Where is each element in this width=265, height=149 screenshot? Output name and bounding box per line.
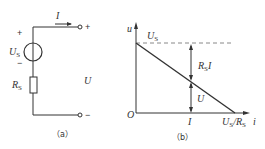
terminal-plus-icon — [78, 25, 82, 29]
current-arrow-icon — [67, 22, 72, 26]
us-label: US — [147, 30, 158, 43]
source-plus-label: + — [17, 28, 22, 38]
graph-b: u i O US RSI U I US/RS （b） — [127, 22, 256, 142]
caption-b: （b） — [172, 133, 193, 142]
y-axis-label: u — [127, 23, 132, 34]
rsi-arrow-up-icon — [189, 44, 193, 50]
voltage-label: U — [84, 75, 92, 86]
resistor-icon — [30, 77, 37, 93]
source-label: US — [9, 46, 20, 59]
circuit-a: I + − + − US RS U （a） — [9, 10, 92, 139]
characteristic-line — [136, 43, 235, 113]
intercept-label: US/RS — [222, 116, 246, 129]
rsi-label: RSI — [197, 60, 212, 73]
resistor-label: RS — [11, 79, 22, 92]
u-label: U — [197, 93, 205, 104]
u-arrow-down-icon — [189, 107, 193, 113]
y-axis-arrow-icon — [134, 22, 138, 29]
terminal-minus-icon — [78, 113, 82, 117]
origin-label: O — [127, 109, 134, 120]
terminal-plus-label: + — [85, 22, 90, 32]
x-axis-label: i — [253, 116, 256, 127]
i-tick-label: I — [187, 116, 192, 127]
terminal-minus-label: − — [85, 110, 90, 120]
caption-a: （a） — [52, 130, 73, 139]
current-label: I — [55, 10, 60, 21]
x-axis-arrow-icon — [243, 111, 250, 115]
source-minus-label: − — [17, 58, 22, 68]
diagram-canvas: I + − + − US RS U （a） u i O US RSI U I U… — [0, 0, 265, 149]
